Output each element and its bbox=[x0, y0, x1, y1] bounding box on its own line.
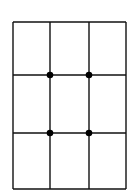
intersection-dot bbox=[47, 72, 54, 79]
grid-lines bbox=[13, 22, 126, 189]
intersection-dot bbox=[47, 130, 54, 137]
intersection-dot bbox=[86, 72, 93, 79]
intersection-dot bbox=[86, 130, 93, 137]
grid-dots bbox=[47, 72, 93, 137]
grid-diagram bbox=[0, 0, 137, 195]
